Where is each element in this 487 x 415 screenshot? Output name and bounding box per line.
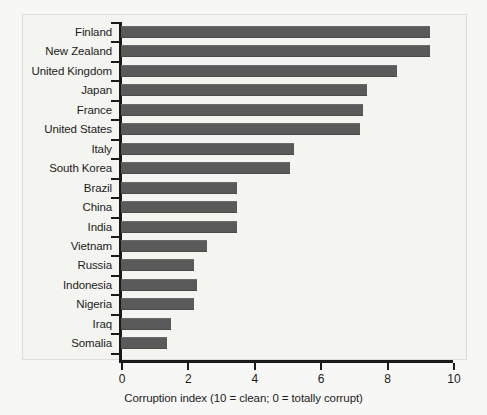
x-axis-tick [320, 363, 322, 370]
bar-row: Brazil [0, 182, 487, 201]
y-axis-tick [111, 333, 119, 335]
x-axis-tick [187, 363, 189, 370]
y-axis-tick [111, 41, 119, 43]
y-axis-tick [111, 100, 119, 102]
bar-row: Vietnam [0, 240, 487, 259]
bar-category-label: South Korea [4, 162, 112, 175]
bar-row: Somalia [0, 337, 487, 356]
bar-row: India [0, 221, 487, 240]
bar [121, 298, 194, 310]
bar-category-label: India [4, 221, 112, 234]
x-axis-tick-label: 6 [306, 372, 336, 386]
bar-row: Italy [0, 143, 487, 162]
bar-category-label: Japan [4, 84, 112, 97]
bar [121, 279, 197, 291]
y-axis-tick [111, 80, 119, 82]
y-axis-tick [111, 255, 119, 257]
bar [121, 143, 294, 155]
bar-category-label: New Zealand [4, 45, 112, 58]
bar-row: China [0, 201, 487, 220]
bar-category-label: Vietnam [4, 240, 112, 253]
bar-row: New Zealand [0, 45, 487, 64]
x-axis-tick-label: 0 [107, 372, 137, 386]
y-axis-tick [111, 197, 119, 199]
y-axis-tick [111, 139, 119, 141]
bar-row: Nigeria [0, 298, 487, 317]
bar [121, 240, 207, 252]
bar-row: Iraq [0, 318, 487, 337]
x-axis-tick-label: 2 [173, 372, 203, 386]
bar [121, 201, 237, 213]
bar-category-label: Italy [4, 143, 112, 156]
x-axis-tick-label: 8 [373, 372, 403, 386]
bar [121, 318, 171, 330]
bar-category-label: Russia [4, 259, 112, 272]
bar-row: France [0, 104, 487, 123]
y-axis-tick [111, 353, 119, 355]
bar [121, 84, 367, 96]
y-axis-tick [111, 61, 119, 63]
y-axis-tick [111, 178, 119, 180]
bar-category-label: Brazil [4, 182, 112, 195]
bar-category-label: Somalia [4, 337, 112, 350]
bar-row: United States [0, 123, 487, 142]
bar-category-label: France [4, 104, 112, 117]
y-axis-tick [111, 22, 119, 24]
bar [121, 182, 237, 194]
bar [121, 259, 194, 271]
bar-category-label: Nigeria [4, 298, 112, 311]
bar-category-label: Iraq [4, 318, 112, 331]
bar [121, 65, 397, 77]
bar [121, 221, 237, 233]
bar [121, 45, 430, 57]
bar [121, 337, 167, 349]
y-axis-tick [111, 294, 119, 296]
x-axis-tick [121, 363, 123, 370]
x-axis-tick-label: 10 [439, 372, 469, 386]
chart-page: FinlandNew ZealandUnited KingdomJapanFra… [0, 0, 487, 415]
bar-category-label: United States [4, 123, 112, 136]
corruption-index-bar-chart: FinlandNew ZealandUnited KingdomJapanFra… [0, 0, 487, 415]
bar-category-label: Finland [4, 26, 112, 39]
bar-row: Russia [0, 259, 487, 278]
y-axis-tick [111, 217, 119, 219]
bar-category-label: Indonesia [4, 279, 112, 292]
x-axis-tick [254, 363, 256, 370]
x-axis-tick [453, 363, 455, 370]
x-axis-title: Corruption index (10 = clean; 0 = totall… [0, 392, 487, 404]
bar-row: Japan [0, 84, 487, 103]
x-axis-tick [387, 363, 389, 370]
bar [121, 104, 363, 116]
y-axis-tick [111, 119, 119, 121]
bar [121, 26, 430, 38]
bar-category-label: United Kingdom [4, 65, 112, 78]
y-axis-tick [111, 236, 119, 238]
bar [121, 162, 290, 174]
y-axis-tick [111, 314, 119, 316]
bar-row: South Korea [0, 162, 487, 181]
y-axis-tick [111, 275, 119, 277]
bar [121, 123, 360, 135]
x-axis-tick-label: 4 [240, 372, 270, 386]
bar-row: Indonesia [0, 279, 487, 298]
y-axis-tick [111, 158, 119, 160]
bar-row: Finland [0, 26, 487, 45]
bar-category-label: China [4, 201, 112, 214]
bar-row: United Kingdom [0, 65, 487, 84]
